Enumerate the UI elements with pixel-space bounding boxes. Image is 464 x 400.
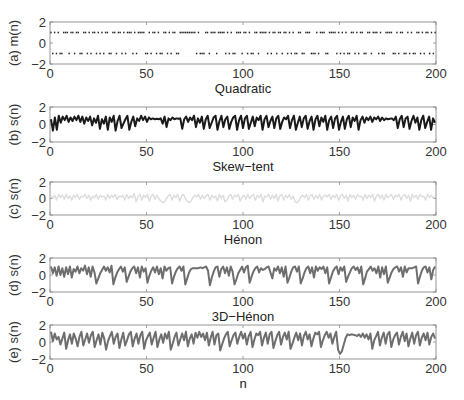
- x-tick-label: 200: [425, 217, 447, 232]
- x-tick-label: 100: [232, 294, 254, 309]
- panel-d: 050100150200−202(d) s(n)3D−Hénon: [6, 251, 447, 325]
- x-tick-label: 50: [139, 361, 153, 376]
- x-tick-label: 150: [329, 66, 351, 81]
- axes-box: [50, 182, 436, 215]
- axes-box: [50, 258, 436, 292]
- y-axis-label: (e) s(n): [6, 321, 21, 363]
- x-axis-title: n: [239, 376, 246, 391]
- y-tick-label: 0: [39, 268, 46, 283]
- y-tick-label: 0: [39, 191, 46, 206]
- x-tick-label: 150: [329, 361, 351, 376]
- x-tick-label: 100: [232, 217, 254, 232]
- x-axis-title: Quadratic: [215, 81, 272, 96]
- panel-c: 050100150200−202(c) s(n)Hénon: [6, 175, 447, 248]
- y-tick-label: 2: [39, 251, 46, 266]
- x-tick-label: 100: [232, 361, 254, 376]
- x-tick-label: 50: [139, 294, 153, 309]
- y-tick-label: 2: [39, 318, 46, 333]
- y-tick-label: −2: [31, 285, 46, 300]
- y-tick-label: −2: [31, 57, 46, 72]
- y-tick-label: 2: [39, 100, 46, 115]
- y-tick-label: 0: [39, 117, 46, 132]
- y-tick-label: 2: [39, 175, 46, 190]
- x-tick-label: 100: [232, 66, 254, 81]
- x-tick-label: 150: [329, 144, 351, 159]
- x-tick-label: 150: [329, 217, 351, 232]
- y-axis-label: (c) s(n): [6, 178, 21, 219]
- y-axis-label: (b) s(n): [6, 104, 21, 146]
- x-tick-label: 50: [139, 144, 153, 159]
- x-axis-title: Skew−tent: [212, 159, 273, 174]
- panel-b: 050100150200−202(b) s(n)Skew−tent: [6, 100, 447, 175]
- x-tick-label: 200: [425, 361, 447, 376]
- y-axis-label: (d) s(n): [6, 254, 21, 296]
- axes-box: [50, 22, 436, 64]
- figure: 050100150200−202(a) m(n)Quadratic0501001…: [0, 0, 464, 400]
- y-tick-label: −2: [31, 352, 46, 367]
- x-tick-label: 0: [46, 294, 53, 309]
- x-tick-label: 200: [425, 294, 447, 309]
- x-axis-title: Hénon: [224, 232, 262, 247]
- y-axis-label: (a) m(n): [6, 20, 21, 66]
- x-axis-title: 3D−Hénon: [212, 309, 275, 324]
- x-tick-label: 0: [46, 217, 53, 232]
- x-tick-label: 50: [139, 66, 153, 81]
- y-tick-label: 0: [39, 36, 46, 51]
- x-tick-label: 100: [232, 144, 254, 159]
- x-tick-label: 0: [46, 144, 53, 159]
- y-tick-label: 0: [39, 335, 46, 350]
- y-tick-label: −2: [31, 135, 46, 150]
- x-tick-label: 50: [139, 217, 153, 232]
- x-tick-label: 150: [329, 294, 351, 309]
- y-tick-label: 2: [39, 15, 46, 30]
- x-tick-label: 200: [425, 66, 447, 81]
- panel-a: 050100150200−202(a) m(n)Quadratic: [6, 15, 447, 97]
- x-tick-label: 0: [46, 361, 53, 376]
- y-tick-label: −2: [31, 208, 46, 223]
- x-tick-label: 200: [425, 144, 447, 159]
- panel-e: 050100150200−202(e) s(n)n: [6, 318, 447, 392]
- x-tick-label: 0: [46, 66, 53, 81]
